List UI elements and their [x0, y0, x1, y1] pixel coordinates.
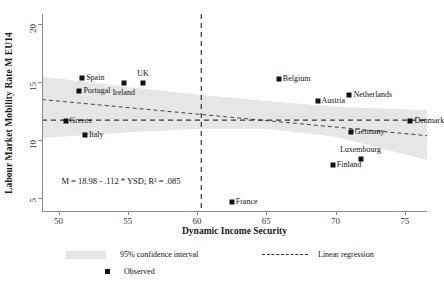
- data-point-spain[interactable]: [80, 76, 85, 81]
- data-point-label-luxembourg: Luxembourg: [340, 146, 381, 154]
- legend-item-observed: Observed: [105, 267, 155, 276]
- y-tick-20: 20: [38, 24, 42, 25]
- observed-marker-swatch: [105, 269, 110, 274]
- data-point-portugal[interactable]: [77, 89, 82, 94]
- y-axis-title: Labour Market Mobility Rate M EU14: [2, 14, 16, 211]
- data-point-label-uk: UK: [137, 70, 149, 78]
- x-tick-55: 55: [128, 211, 129, 215]
- x-tick-65: 65: [266, 211, 267, 215]
- data-point-label-germany: Germany: [355, 128, 385, 136]
- data-point-italy[interactable]: [82, 133, 87, 138]
- data-point-austria[interactable]: [315, 99, 320, 104]
- y-tick-label-10: 10: [29, 140, 38, 149]
- legend-label-confidence-interval: 95% confidence interval: [120, 250, 198, 259]
- legend-label-linear-regression: Linear regression: [318, 250, 374, 259]
- legend-item-linear-regression: Linear regression: [262, 250, 374, 259]
- x-tick-label-65: 65: [262, 217, 271, 226]
- y-tick-10: 10: [38, 140, 42, 141]
- x-tick-label-75: 75: [400, 217, 409, 226]
- x-tick-label-70: 70: [331, 217, 340, 226]
- regression-equation-annotation: M = 18.98 - .112 * YSD; R² = .085: [61, 176, 180, 186]
- data-point-label-ireland: Ireland: [112, 89, 135, 97]
- legend-label-observed: Observed: [124, 267, 155, 276]
- data-point-belgium[interactable]: [276, 76, 281, 81]
- x-tick-50: 50: [59, 211, 60, 215]
- y-axis-line: [42, 14, 43, 211]
- x-tick-75: 75: [405, 211, 406, 215]
- data-point-ireland[interactable]: [121, 80, 126, 85]
- x-tick-label-50: 50: [54, 217, 63, 226]
- data-point-label-austria: Austria: [322, 97, 346, 105]
- chart-legend: 95% confidence interval Linear regressio…: [42, 248, 429, 288]
- data-point-france[interactable]: [229, 200, 234, 205]
- y-tick-label-5: 5: [29, 198, 38, 203]
- data-point-denmark[interactable]: [408, 118, 413, 123]
- y-axis-title-text: Labour Market Mobility Rate M EU14: [4, 32, 14, 194]
- legend-item-confidence-interval: 95% confidence interval: [66, 250, 198, 259]
- data-point-uk[interactable]: [141, 80, 146, 85]
- y-tick-15: 15: [38, 82, 42, 83]
- data-point-label-denmark: Denmark: [414, 117, 444, 125]
- regression-line-swatch: [262, 254, 308, 255]
- x-tick-60: 60: [197, 211, 198, 215]
- data-point-germany[interactable]: [348, 129, 353, 134]
- data-point-label-portugal: Portugal: [83, 87, 110, 95]
- data-point-label-finland: Finland: [337, 161, 361, 169]
- x-tick-70: 70: [336, 211, 337, 215]
- data-point-label-belgium: Belgium: [283, 75, 311, 83]
- data-point-label-greece: Greece: [70, 117, 93, 125]
- plot-area: 5101520 505560657075 SpainPortugalIrelan…: [42, 14, 427, 211]
- data-point-label-italy: Italy: [89, 131, 104, 139]
- y-tick-label-15: 15: [29, 82, 38, 91]
- y-tick-label-20: 20: [29, 24, 38, 33]
- data-point-label-france: France: [236, 198, 258, 206]
- data-point-netherlands[interactable]: [347, 93, 352, 98]
- data-point-greece[interactable]: [63, 119, 68, 124]
- data-point-finland[interactable]: [330, 163, 335, 168]
- x-tick-label-60: 60: [193, 217, 202, 226]
- x-axis-title-text: Dynamic Income Security: [182, 226, 287, 236]
- y-tick-5: 5: [38, 198, 42, 199]
- data-point-label-netherlands: Netherlands: [353, 91, 392, 99]
- x-tick-label-55: 55: [123, 217, 132, 226]
- data-point-label-spain: Spain: [86, 74, 104, 82]
- ci-band-swatch: [66, 251, 106, 259]
- x-axis-line: [42, 211, 427, 212]
- x-axis-title: Dynamic Income Security: [42, 226, 427, 236]
